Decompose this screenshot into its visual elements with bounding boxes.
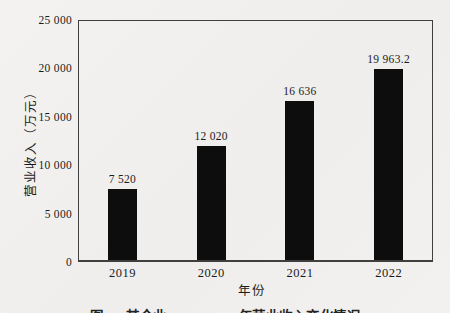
bar-value-label: 7 520 (82, 173, 162, 186)
x-axis-title: 年份 (222, 280, 282, 299)
y-tick-label: 15 000 (6, 111, 72, 123)
bar (197, 146, 226, 260)
x-tick-label: 2020 (175, 266, 247, 281)
y-tick-label: 10 000 (6, 159, 72, 171)
chart-page: 营业收入（万元） 年份 图1-2 某企业2019—2022年营业收入变化情况 0… (0, 0, 450, 313)
bar-value-label: 16 636 (260, 85, 340, 98)
bar (108, 189, 137, 260)
bar-value-label: 12 020 (171, 130, 251, 143)
y-tick-label: 5 000 (6, 208, 72, 220)
x-tick-label: 2019 (86, 266, 158, 281)
x-tick-label: 2021 (264, 266, 336, 281)
y-tick-label: 20 000 (6, 62, 72, 74)
bar (285, 101, 314, 260)
y-tick-label: 0 (6, 256, 72, 268)
bar (374, 69, 403, 260)
bar-value-label: 19 963.2 (349, 53, 429, 66)
caption-partial: 图1-2 某企业2019—2022年营业收入变化情况 (0, 305, 450, 313)
y-axis-title: 营业收入（万元） (20, 85, 39, 197)
y-tick-label: 25 000 (6, 14, 72, 26)
x-tick-label: 2022 (353, 266, 425, 281)
